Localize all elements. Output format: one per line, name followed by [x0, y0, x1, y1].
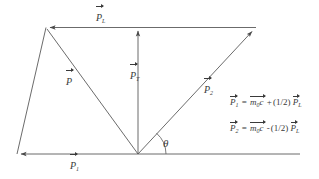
eq1-operator: + — [266, 97, 273, 107]
edge-left-side — [17, 28, 46, 155]
eq1-lhs-symbol: P — [230, 97, 236, 107]
vector-label-p-two: P2 — [204, 80, 213, 96]
vector-label-p-resultant: P — [66, 72, 72, 88]
eq1-equals: = — [241, 97, 248, 107]
vector-symbol-p-transverse: P — [130, 70, 136, 81]
eq2-term1-factor: c — [260, 123, 264, 133]
vector-subscript-p-one: 1 — [76, 166, 79, 172]
eq1-term1-factor: c — [260, 97, 264, 107]
vector-line-p-resultant — [47, 29, 138, 154]
eq2-equals: = — [241, 123, 248, 133]
equation-p2: P2 = m0c -(1/2) PL — [230, 124, 299, 135]
eq1-term2-symbol: P — [293, 97, 299, 107]
vector-label-p-transverse: PT — [130, 66, 139, 82]
vector-subscript-p-transverse: T — [136, 76, 139, 82]
vector-subscript-p-two: 2 — [210, 90, 213, 96]
equation-p1: P1 = m0c +(1/2) PL — [230, 98, 302, 109]
vector-symbol-p-resultant: P — [66, 76, 72, 87]
vector-label-p-one: P1 — [70, 156, 79, 172]
eq2-term2-symbol: P — [291, 123, 297, 133]
vector-diagram-canvas — [0, 0, 319, 179]
vector-subscript-p-longitudinal: L — [102, 18, 105, 24]
vector-symbol-p-two: P — [204, 84, 210, 95]
eq2-coefficient: (1/2) — [271, 123, 289, 133]
angle-label-theta: θ — [163, 137, 168, 149]
vector-label-p-longitudinal: PL — [96, 8, 105, 24]
eq2-lhs-symbol: P — [230, 123, 236, 133]
eq2-term2-subscript: L — [296, 128, 299, 134]
eq1-term2-subscript: L — [298, 102, 301, 108]
vector-symbol-p-longitudinal: P — [96, 12, 102, 23]
eq1-coefficient: (1/2) — [273, 97, 291, 107]
vector-symbol-p-one: P — [70, 160, 76, 171]
